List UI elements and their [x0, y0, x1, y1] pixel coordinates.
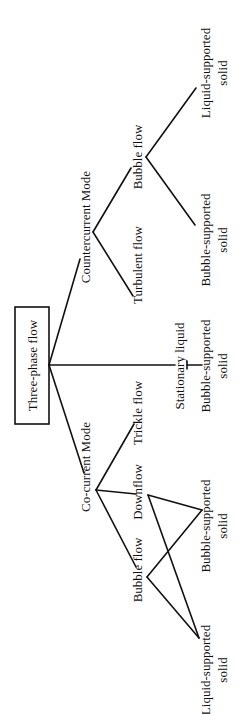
- cc-bubble-flow-label: Bubble flow: [130, 124, 145, 189]
- stationary-branch: Stationary liquid Bubble-supported solid: [172, 319, 230, 413]
- cocurrent-branch: Co-current Mode Trickle flow Downflow Bu…: [78, 380, 230, 714]
- co-liquid-supported-line2: solid: [215, 657, 230, 683]
- countercurrent-branch: Countercurrent Mode Turbulent flow Bubbl…: [78, 27, 230, 304]
- edge-root-countercurrent: [49, 259, 80, 365]
- edge-countercurrent-bubble: [93, 168, 131, 232]
- stationary-liquid-label: Stationary liquid: [172, 322, 187, 410]
- st-bubble-supported-line1: Bubble-supported: [198, 319, 213, 413]
- co-bubble-flow-label: Bubble flow: [130, 537, 145, 602]
- co-bubble-supported-line2: solid: [215, 513, 230, 539]
- trickle-flow-label: Trickle flow: [130, 380, 145, 445]
- edge-cocurrent-trickle: [96, 424, 134, 490]
- cocurrent-label: Co-current Mode: [78, 422, 93, 512]
- three-phase-flow-diagram: Three-phase flow Countercurrent Mode Tur…: [0, 0, 246, 714]
- co-bubble-supported-line1: Bubble-supported: [198, 479, 213, 573]
- edge-cc-bubble-liquid: [146, 88, 196, 157]
- downflow-label: Downflow: [130, 464, 145, 520]
- cc-liquid-supported-line2: solid: [215, 60, 230, 86]
- cc-bubble-supported-line2: solid: [215, 227, 230, 253]
- st-bubble-supported-line2: solid: [215, 353, 230, 379]
- cc-bubble-supported-line1: Bubble-supported: [198, 193, 213, 287]
- edge-downflow-bubblesupported: [148, 495, 202, 510]
- turbulent-flow-label: Turbulent flow: [130, 225, 145, 303]
- co-liquid-supported-line1: Liquid-supported: [198, 624, 213, 714]
- edge-bubble-liquidsupported: [147, 577, 199, 638]
- countercurrent-label: Countercurrent Mode: [78, 171, 93, 284]
- edge-countercurrent-turbulent: [93, 232, 133, 296]
- cc-liquid-supported-line1: Liquid-supported: [198, 27, 213, 118]
- root-node: Three-phase flow: [15, 307, 49, 424]
- root-label: Three-phase flow: [25, 319, 40, 411]
- edge-cc-bubble-bubblesupported: [146, 157, 195, 225]
